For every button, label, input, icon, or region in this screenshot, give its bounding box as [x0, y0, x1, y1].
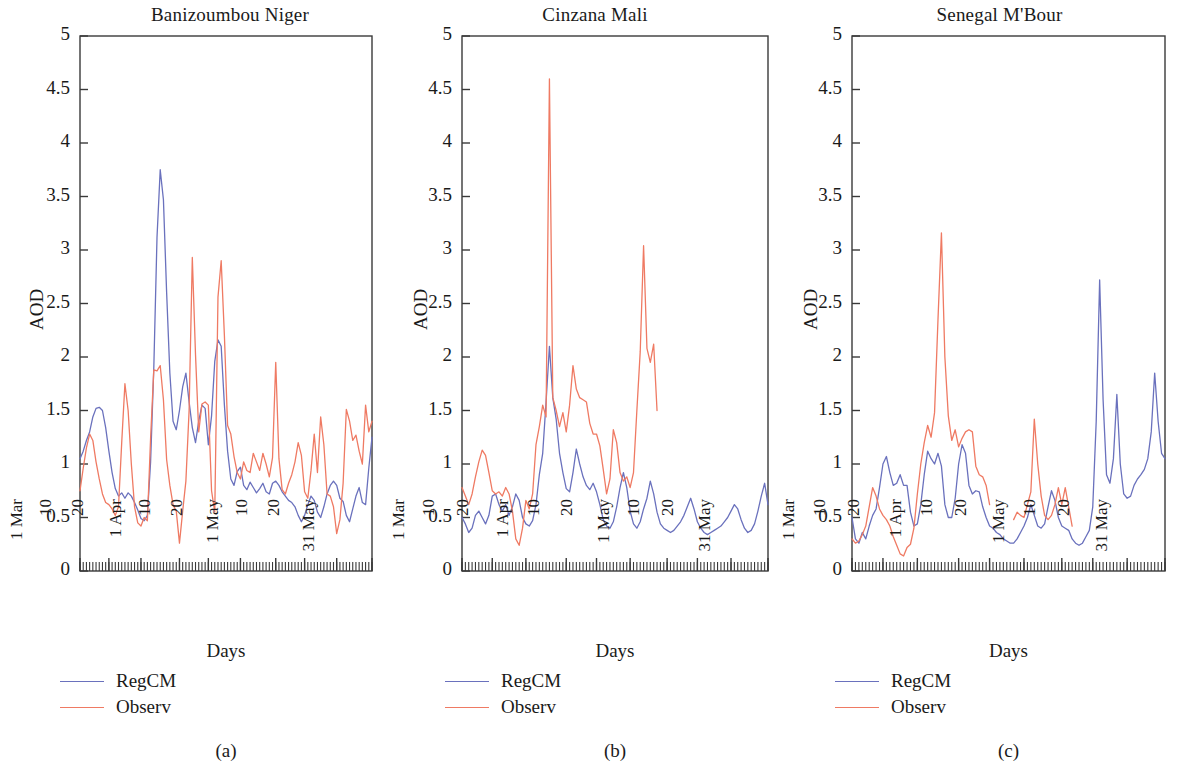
legend-item-observ: Observ — [445, 694, 561, 720]
legend-label: Observ — [891, 696, 946, 718]
legend-label: RegCM — [116, 670, 176, 692]
panel-a-x-axis-label: Days — [80, 640, 372, 662]
legend-label: RegCM — [501, 670, 561, 692]
x-tick-label: 1 Apr — [106, 499, 126, 579]
y-tick-label: 0.5 — [818, 505, 842, 527]
x-tick-label: 20 — [453, 499, 473, 579]
legend-line-swatch — [445, 681, 489, 682]
x-tick-label: 20 — [844, 499, 864, 579]
legend-line-swatch — [835, 681, 879, 682]
legend-line-swatch — [445, 707, 489, 708]
y-tick-label: 1 — [443, 451, 453, 473]
legend-line-swatch — [835, 707, 879, 708]
panel-a-letter: (a) — [80, 740, 372, 762]
legend-item-regcm: RegCM — [445, 668, 561, 694]
legend-label: Observ — [501, 696, 556, 718]
y-tick-label: 1 — [833, 451, 843, 473]
panel-a-legend: RegCMObserv — [60, 668, 176, 720]
x-tick-label: 1 Apr — [493, 499, 513, 579]
y-tick-label: 3 — [833, 237, 843, 259]
y-tick-label: 3 — [443, 237, 453, 259]
y-tick-label: 2.5 — [428, 291, 452, 313]
x-tick-label: 10 — [917, 499, 937, 579]
y-tick-label: 4.5 — [428, 77, 452, 99]
legend-item-observ: Observ — [60, 694, 176, 720]
y-tick-label: 5 — [61, 23, 71, 45]
x-tick-label: 1 Mar — [389, 499, 409, 579]
y-tick-label: 2 — [61, 344, 71, 366]
x-tick-label: 1 Mar — [779, 499, 799, 579]
x-tick-label: 20 — [1054, 499, 1074, 579]
x-tick-label: 1 Apr — [886, 499, 906, 579]
legend-item-observ: Observ — [835, 694, 951, 720]
x-tick-label: 20 — [557, 499, 577, 579]
panel-b: Cinzana Mali AOD 1 Mar10201 Apr10201 May… — [390, 0, 780, 771]
x-tick-label: 10 — [524, 499, 544, 579]
y-tick-label: 3.5 — [818, 184, 842, 206]
legend-item-regcm: RegCM — [60, 668, 176, 694]
y-tick-label: 4 — [443, 130, 453, 152]
panel-c-letter: (c) — [852, 740, 1165, 762]
x-tick-label: 1 May — [989, 499, 1009, 579]
legend-label: Observ — [116, 696, 171, 718]
panel-a-y-axis-label: AOD — [26, 289, 48, 330]
y-tick-label: 0 — [61, 558, 71, 580]
panel-c-x-axis-label: Days — [852, 640, 1165, 662]
y-tick-label: 4 — [833, 130, 843, 152]
figure-root: Banizoumbou Niger AOD 1 Mar10201 Apr1020… — [0, 0, 1179, 771]
x-tick-label: 20 — [658, 499, 678, 579]
panel-c: Senegal M'Bour AOD 1 Mar10201 Apr10201 M… — [780, 0, 1179, 771]
x-tick-label: 20 — [264, 499, 284, 579]
y-tick-label: 0.5 — [46, 505, 70, 527]
y-tick-label: 3.5 — [428, 184, 452, 206]
legend-label: RegCM — [891, 670, 951, 692]
y-tick-label: 1.5 — [46, 398, 70, 420]
y-tick-label: 0 — [833, 558, 843, 580]
x-tick-label: 1 May — [203, 499, 223, 579]
legend-line-swatch — [60, 681, 104, 682]
y-tick-label: 1.5 — [428, 398, 452, 420]
y-tick-label: 4 — [61, 130, 71, 152]
y-tick-label: 5 — [833, 23, 843, 45]
x-tick-label: 31 May — [695, 499, 715, 579]
y-tick-label: 5 — [443, 23, 453, 45]
x-tick-label: 1 May — [594, 499, 614, 579]
y-tick-label: 1 — [61, 451, 71, 473]
y-tick-label: 2 — [443, 344, 453, 366]
x-tick-label: 20 — [167, 499, 187, 579]
panel-b-letter: (b) — [462, 740, 768, 762]
y-tick-label: 2.5 — [818, 291, 842, 313]
x-tick-label: 31 May — [299, 499, 319, 579]
x-tick-label: 10 — [624, 499, 644, 579]
panel-b-x-axis-label: Days — [462, 640, 768, 662]
y-tick-label: 2.5 — [46, 291, 70, 313]
panel-c-legend: RegCMObserv — [835, 668, 951, 720]
x-tick-label: 10 — [1020, 499, 1040, 579]
y-tick-label: 0.5 — [428, 505, 452, 527]
y-tick-label: 4.5 — [818, 77, 842, 99]
x-tick-label: 10 — [232, 499, 252, 579]
panel-a: Banizoumbou Niger AOD 1 Mar10201 Apr1020… — [0, 0, 400, 771]
legend-item-regcm: RegCM — [835, 668, 951, 694]
legend-line-swatch — [60, 707, 104, 708]
x-tick-label: 20 — [951, 499, 971, 579]
x-tick-label: 20 — [68, 499, 88, 579]
panel-b-legend: RegCMObserv — [445, 668, 561, 720]
y-tick-label: 3 — [61, 237, 71, 259]
y-tick-label: 2 — [833, 344, 843, 366]
y-tick-label: 3.5 — [46, 184, 70, 206]
x-tick-label: 1 Mar — [7, 499, 27, 579]
y-tick-label: 4.5 — [46, 77, 70, 99]
y-tick-label: 1.5 — [818, 398, 842, 420]
y-tick-label: 0 — [443, 558, 453, 580]
x-tick-label: 31 May — [1092, 499, 1112, 579]
x-tick-label: 10 — [135, 499, 155, 579]
